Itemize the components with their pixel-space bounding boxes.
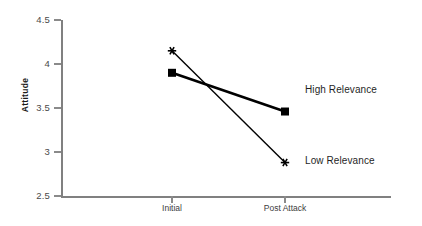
plot-area [0, 0, 422, 226]
series-label-low-relevance: Low Relevance [305, 155, 375, 166]
marker-square [168, 69, 176, 77]
attitude-line-chart: Attitude 2.533.544.5 InitialPost Attack … [0, 0, 422, 226]
series-label-high-relevance: High Relevance [305, 84, 377, 95]
marker-square [281, 108, 289, 116]
